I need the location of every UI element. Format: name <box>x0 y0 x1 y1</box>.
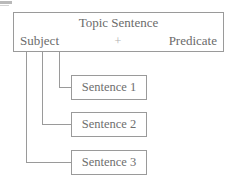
sentence-3-label: Sentence 3 <box>82 155 137 170</box>
subject-predicate-row: Subject + Predicate <box>20 32 217 50</box>
connector-to-sentence-3 <box>27 52 72 163</box>
sentence-box-3: Sentence 3 <box>71 150 147 175</box>
sentence-box-2: Sentence 2 <box>71 112 147 137</box>
sentence-1-label: Sentence 1 <box>82 80 137 95</box>
paragraph-structure-diagram: Topic Sentence Subject + Predicate Sente… <box>0 0 233 190</box>
plus-operator-icon: + <box>114 33 121 50</box>
sentence-box-1: Sentence 1 <box>71 75 147 100</box>
sentence-2-label: Sentence 2 <box>82 117 137 132</box>
topic-sentence-heading: Topic Sentence <box>14 15 223 31</box>
connector-to-sentence-2 <box>43 52 72 125</box>
subject-label: Subject <box>20 32 59 49</box>
connector-to-sentence-1 <box>60 52 72 88</box>
predicate-label: Predicate <box>169 32 217 49</box>
topic-sentence-box: Topic Sentence Subject + Predicate <box>13 12 224 52</box>
